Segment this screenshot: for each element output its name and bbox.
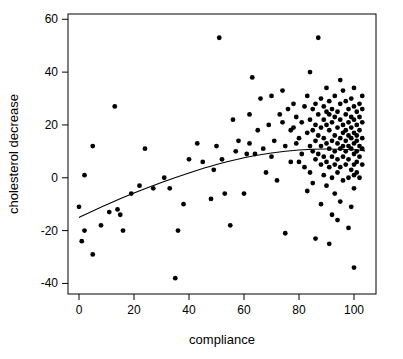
data-point [330,154,335,159]
data-point [341,154,346,159]
data-point [313,157,318,162]
data-point [187,157,192,162]
data-point [308,170,313,175]
data-point [354,170,359,175]
data-point [354,133,359,138]
data-point [319,96,324,101]
data-point [332,93,337,98]
data-point [327,241,332,246]
data-point [332,162,337,167]
data-point [316,35,321,40]
data-point [360,93,365,98]
data-point [335,157,340,162]
data-point [214,144,219,149]
data-point [275,178,280,183]
data-point [357,154,362,159]
data-point [332,115,337,120]
data-point [176,228,181,233]
data-point [118,212,123,217]
data-point [360,120,365,125]
data-point [305,189,310,194]
data-point [242,191,247,196]
data-point [112,104,117,109]
y-tick-label: 0 [51,171,58,185]
data-point [211,167,216,172]
data-point [319,202,324,207]
data-point [288,160,293,165]
data-point [247,141,252,146]
data-point [283,144,288,149]
data-point [294,141,299,146]
data-point [352,265,357,270]
data-point [297,136,302,141]
data-point [352,86,357,91]
data-point [335,218,340,223]
data-point [357,128,362,133]
data-point [349,125,354,130]
data-point [167,186,172,191]
data-point [302,165,307,170]
data-point [319,144,324,149]
data-point [341,88,346,93]
data-point [327,165,332,170]
data-point [343,128,348,133]
data-point [222,191,227,196]
data-point [354,160,359,165]
data-point [269,93,274,98]
data-point [137,183,142,188]
data-point [332,133,337,138]
data-point [302,104,307,109]
data-point [313,123,318,128]
data-point [173,276,178,281]
data-point [324,183,329,188]
data-point [338,78,343,83]
data-point [321,173,326,178]
data-point [316,112,321,117]
data-point [349,204,354,209]
data-point [332,149,337,154]
data-point [255,128,260,133]
data-point [338,117,343,122]
y-tick-label: 60 [45,12,59,26]
data-point [269,154,274,159]
data-point [181,202,186,207]
data-point [332,191,337,196]
scatter-plot: 020406080100 -40-200204060 compliance ch… [0,0,403,359]
data-point [343,138,348,143]
data-point [335,109,340,114]
data-point [330,175,335,180]
y-tick-label: -20 [41,224,59,238]
data-point [272,138,277,143]
data-point [308,117,313,122]
data-point [299,152,304,157]
data-point [349,146,354,151]
data-point [121,228,126,233]
data-point [261,146,266,151]
data-point [330,107,335,112]
data-point [79,239,84,244]
data-point [310,181,315,186]
data-point [338,101,343,106]
data-point [291,125,296,130]
data-point [338,199,343,204]
data-point [319,125,324,130]
data-point [330,120,335,125]
data-point [107,210,112,215]
data-point [313,101,318,106]
data-point [354,138,359,143]
data-point [233,149,238,154]
data-point [77,204,82,209]
data-point [316,152,321,157]
data-point [321,154,326,159]
data-point [341,123,346,128]
data-point [341,144,346,149]
data-point [335,170,340,175]
x-tick-label: 0 [76,303,83,317]
data-point [310,107,315,112]
data-point [352,117,357,122]
data-point [341,178,346,183]
data-point [277,112,282,117]
data-point [264,170,269,175]
x-tick-label: 20 [127,303,141,317]
data-point [308,144,313,149]
